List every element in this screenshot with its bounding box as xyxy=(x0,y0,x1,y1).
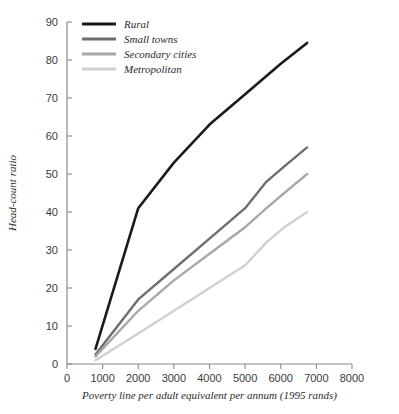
y-tick-label: 0 xyxy=(52,358,58,370)
legend-label-metropolitan: Metropolitan xyxy=(123,63,182,75)
y-axis-title: Head-count ratio xyxy=(6,154,18,232)
y-tick-label: 30 xyxy=(46,244,58,256)
x-tick-label: 3000 xyxy=(162,372,186,384)
y-tick-label: 20 xyxy=(46,282,58,294)
y-tick-label: 10 xyxy=(46,320,58,332)
series-line-metropolitan xyxy=(96,212,308,360)
legend-label-secondary-cities: Secondary cities xyxy=(124,48,196,60)
x-tick-label: 1000 xyxy=(90,372,114,384)
chart-container: 0102030405060708090010002000300040005000… xyxy=(0,0,399,414)
legend-label-rural: Rural xyxy=(123,18,149,30)
y-tick-label: 90 xyxy=(46,16,58,28)
x-axis-title: Poverty line per adult equivalent per an… xyxy=(81,389,337,402)
series-line-secondary-cities xyxy=(96,174,308,356)
y-tick-label: 60 xyxy=(46,130,58,142)
x-tick-label: 0 xyxy=(64,372,70,384)
line-chart: 0102030405060708090010002000300040005000… xyxy=(0,0,399,414)
y-tick-label: 40 xyxy=(46,206,58,218)
x-tick-label: 4000 xyxy=(197,372,221,384)
y-tick-label: 50 xyxy=(46,168,58,180)
x-tick-label: 6000 xyxy=(269,372,293,384)
x-tick-label: 2000 xyxy=(126,372,150,384)
legend-label-small-towns: Small towns xyxy=(124,33,177,45)
y-tick-label: 80 xyxy=(46,54,58,66)
x-tick-label: 5000 xyxy=(233,372,257,384)
y-tick-label: 70 xyxy=(46,92,58,104)
series-line-rural xyxy=(96,43,308,349)
x-tick-label: 8000 xyxy=(340,372,364,384)
x-tick-label: 7000 xyxy=(304,372,328,384)
